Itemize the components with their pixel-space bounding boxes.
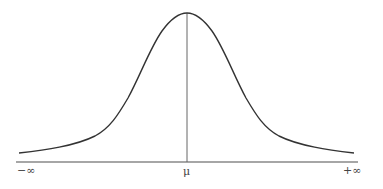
neg-infinity-label: −∞ [17,165,35,176]
pos-infinity-label: +∞ [343,165,361,176]
bell-curve-diagram [0,0,383,189]
mu-label: μ [183,166,190,177]
